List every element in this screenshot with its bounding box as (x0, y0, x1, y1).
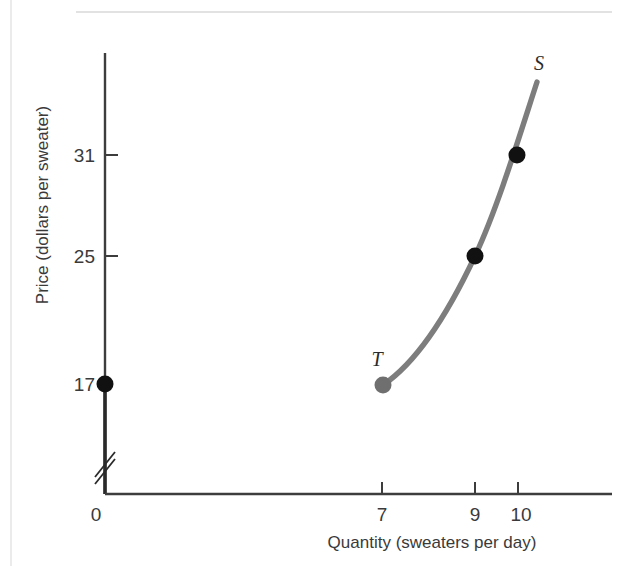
origin-label: 0 (91, 504, 102, 525)
curve-label-s: S (534, 52, 544, 74)
x-tick-9: 9 (470, 482, 481, 525)
x-tick-10: 10 (510, 482, 531, 525)
curve-label-t: T (371, 348, 384, 370)
x-tick-label-7: 7 (377, 504, 388, 525)
x-tick-label-9: 9 (470, 504, 481, 525)
y-tick-label-31: 31 (74, 145, 95, 166)
x-tick-7: 7 (377, 482, 388, 525)
y-tick-17: 17 (74, 374, 95, 395)
data-point-9-25 (467, 248, 484, 265)
y-tick-label-17: 17 (74, 374, 95, 395)
y-tick-25: 25 (74, 246, 118, 267)
supply-curve-s (383, 82, 537, 385)
chart-canvas: 31 25 17 0 7 9 10 S (0, 0, 638, 566)
y-axis-title: Price (dollars per sweater) (33, 106, 52, 304)
data-point-t (375, 377, 392, 394)
price-axis-point-17 (97, 376, 114, 393)
x-axis-title: Quantity (sweaters per day) (328, 533, 537, 552)
data-point-10-31 (509, 147, 526, 164)
supply-curve-figure: 31 25 17 0 7 9 10 S (0, 0, 638, 566)
x-tick-label-10: 10 (510, 504, 531, 525)
y-tick-31: 31 (74, 145, 118, 166)
y-tick-label-25: 25 (74, 246, 95, 267)
